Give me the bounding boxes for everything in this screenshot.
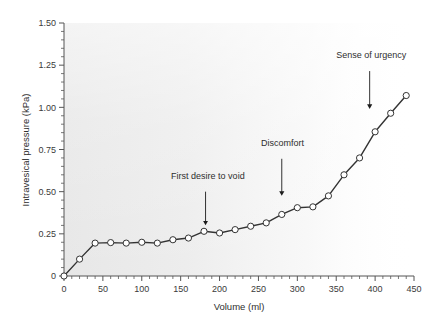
data-point: [263, 220, 269, 226]
annotation-label: Discomfort: [261, 138, 305, 148]
y-tick-label: 0.50: [38, 187, 56, 197]
data-point: [310, 204, 316, 210]
data-point: [216, 230, 222, 236]
x-tick-label: 0: [61, 284, 66, 294]
x-tick-label: 300: [290, 284, 305, 294]
data-point: [279, 211, 285, 217]
y-tick-label: 0.75: [38, 145, 56, 155]
chart-canvas: 00.250.500.751.001.251.50 05010015020025…: [0, 0, 427, 322]
y-tick-label: 1.00: [38, 103, 56, 113]
y-axis-ticks: [59, 23, 64, 276]
data-point: [76, 256, 82, 262]
y-tick-label: 1.50: [38, 18, 56, 28]
x-tick-label: 50: [98, 284, 108, 294]
x-tick-label: 450: [406, 284, 421, 294]
data-point: [201, 228, 207, 234]
annotation-label: Sense of urgency: [336, 50, 407, 60]
plot-background: [64, 23, 414, 276]
y-axis-tick-labels: 00.250.500.751.001.251.50: [38, 18, 56, 281]
x-tick-label: 350: [329, 284, 344, 294]
data-point: [92, 240, 98, 246]
x-tick-label: 150: [173, 284, 188, 294]
data-point: [403, 92, 409, 98]
data-point: [325, 193, 331, 199]
y-tick-label: 0: [51, 271, 56, 281]
x-tick-label: 250: [251, 284, 266, 294]
cystometrogram-figure: 00.250.500.751.001.251.50 05010015020025…: [0, 0, 427, 322]
annotation-label: First desire to void: [171, 171, 245, 181]
data-point: [248, 223, 254, 229]
data-point: [341, 172, 347, 178]
data-point: [61, 273, 67, 279]
data-point: [154, 240, 160, 246]
data-point: [232, 227, 238, 233]
data-point: [372, 129, 378, 135]
data-point: [294, 205, 300, 211]
x-axis-tick-labels: 050100150200250300350400450: [61, 284, 421, 294]
data-point: [123, 240, 129, 246]
x-tick-label: 100: [134, 284, 149, 294]
data-point: [139, 239, 145, 245]
data-point: [108, 240, 114, 246]
x-axis-ticks: [64, 276, 414, 281]
x-tick-label: 200: [212, 284, 227, 294]
y-tick-label: 1.25: [38, 60, 56, 70]
data-point: [388, 110, 394, 116]
data-point: [170, 237, 176, 243]
y-tick-label: 0.25: [38, 229, 56, 239]
y-axis-title: Intravesical pressure (kPa): [20, 94, 31, 207]
x-axis-title: Volume (ml): [214, 301, 265, 312]
data-point: [185, 235, 191, 241]
data-point: [356, 155, 362, 161]
x-tick-label: 400: [368, 284, 383, 294]
